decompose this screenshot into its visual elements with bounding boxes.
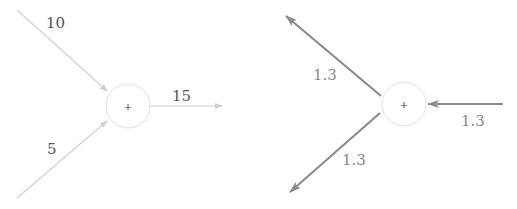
forward-output-value: 15 <box>172 87 191 105</box>
backward-edge-top <box>286 16 381 96</box>
backward-add-operator: + <box>400 99 408 110</box>
backward-grad-bottom-value: 1.3 <box>342 151 366 169</box>
backward-edge-bottom <box>290 113 380 192</box>
forward-pass-diagram: + 10 5 15 <box>17 10 222 198</box>
addition-gate-diagram: + 10 5 15 + 1.3 1.3 1.3 <box>0 0 517 209</box>
backward-upstream-grad-value: 1.3 <box>461 112 485 130</box>
backward-grad-top-value: 1.3 <box>313 66 337 84</box>
forward-input-bottom-value: 5 <box>47 140 57 158</box>
forward-add-operator: + <box>124 101 132 112</box>
forward-edge-bottom <box>17 121 107 198</box>
forward-input-top-value: 10 <box>46 14 65 32</box>
backward-pass-diagram: + 1.3 1.3 1.3 <box>286 16 503 192</box>
